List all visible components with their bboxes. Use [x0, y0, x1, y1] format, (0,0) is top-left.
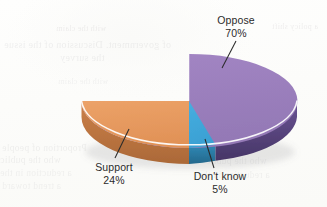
pie-label-oppose-name: Oppose: [196, 14, 276, 27]
pie-label-dontknow: Don't know 5%: [172, 170, 268, 195]
pie-label-support-value: 24%: [74, 174, 154, 187]
pie-chart: [0, 0, 327, 207]
pie-label-oppose: Oppose 70%: [196, 14, 276, 39]
pie-label-dontknow-name: Don't know: [172, 170, 268, 183]
pie-label-support-name: Support: [74, 161, 154, 174]
pie-chart-svg: [0, 0, 327, 207]
pie-label-oppose-value: 70%: [196, 27, 276, 40]
pie-label-support: Support 24%: [74, 161, 154, 186]
pie-label-dontknow-value: 5%: [172, 183, 268, 196]
